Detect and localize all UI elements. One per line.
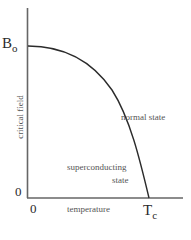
bo-tick-label: Bo <box>2 36 18 51</box>
superconducting-state-label: state <box>112 176 129 185</box>
superconducting-label: superconducting <box>67 163 126 172</box>
normal-state-label: normal state <box>121 113 165 122</box>
tc-tick-label: Tc <box>143 203 157 218</box>
x-axis-label: temperature <box>67 205 110 214</box>
x-zero-tick: 0 <box>30 202 37 215</box>
y-axis-label: critical field <box>15 95 25 139</box>
y-zero-tick: 0 <box>15 185 22 198</box>
critical-field-curve <box>28 46 149 198</box>
